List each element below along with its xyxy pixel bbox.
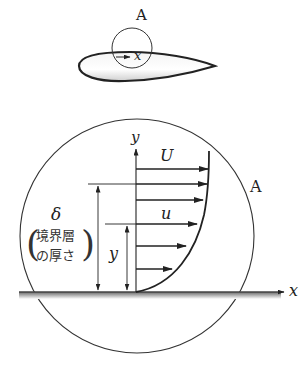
y-axis-label: y bbox=[131, 130, 139, 145]
thickness-note-line1: 境界層 bbox=[36, 229, 75, 242]
airfoil-shape bbox=[79, 52, 215, 81]
boundary-layer-figure: A x y U u A x y δ ( ) 境界層 の厚さ bbox=[0, 0, 303, 371]
airfoil-x-label: x bbox=[134, 49, 141, 62]
local-velocity-label: u bbox=[161, 206, 171, 222]
region-a-label-small: A bbox=[136, 8, 147, 23]
velocity-arrows bbox=[136, 169, 208, 269]
delta-symbol: δ bbox=[51, 206, 61, 223]
wall-surface-shading bbox=[19, 292, 281, 299]
paren-close: ) bbox=[81, 226, 95, 262]
x-axis-label: x bbox=[289, 283, 298, 299]
freestream-velocity-label: U bbox=[160, 148, 173, 164]
thickness-note-line2: の厚さ bbox=[36, 249, 75, 262]
region-a-label-large: A bbox=[250, 179, 262, 195]
airfoil-view bbox=[79, 28, 215, 81]
height-y-label: y bbox=[109, 246, 118, 262]
velocity-profile-curve bbox=[136, 151, 209, 292]
